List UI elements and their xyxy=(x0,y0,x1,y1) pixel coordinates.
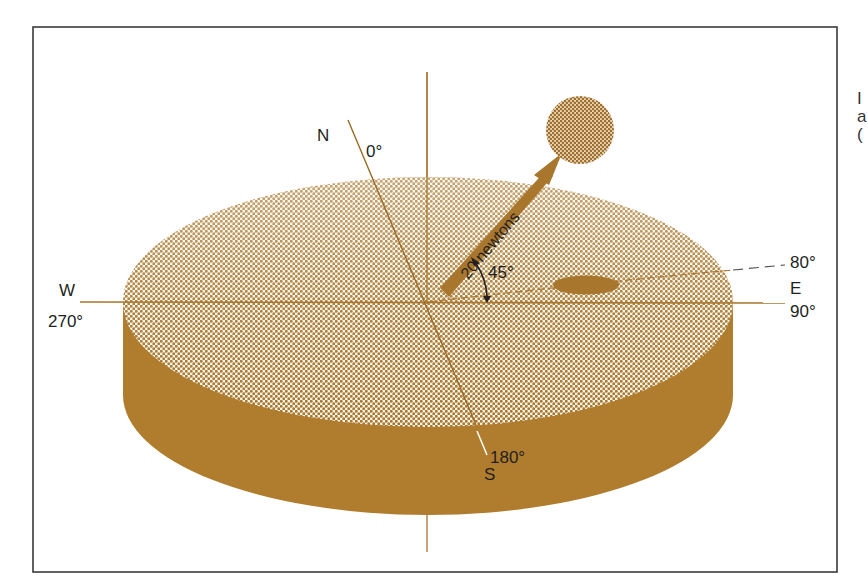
disk-force-diagram: 20 newtons N 0° W 270° 80° E 90° 180° S … xyxy=(0,0,868,587)
eighty-degrees-label: 80° xyxy=(790,254,816,271)
ball xyxy=(546,96,614,164)
west-degrees-label: 270° xyxy=(48,313,83,330)
east-west-axis-line xyxy=(80,302,785,303)
east-degrees-label: 90° xyxy=(790,303,816,320)
target-ellipse-marker xyxy=(553,276,619,295)
diagram-canvas: 20 newtons xyxy=(0,0,868,587)
angle-45-label: 45° xyxy=(488,264,514,281)
north-label: N xyxy=(317,127,329,144)
east-label: E xyxy=(790,280,801,297)
edge-text-line-2: a xyxy=(857,108,868,126)
south-degrees-label: 180° xyxy=(490,449,525,466)
south-label: S xyxy=(484,466,495,483)
north-degrees-label: 0° xyxy=(366,143,382,160)
edge-text-line-1: I xyxy=(857,90,868,108)
edge-text-line-3: ( xyxy=(857,126,868,144)
west-label: W xyxy=(59,282,75,299)
cropped-edge-text: I a ( xyxy=(857,90,868,150)
